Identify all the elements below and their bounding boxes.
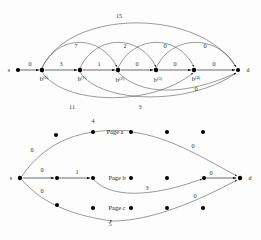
dot-a-1 (54, 133, 58, 137)
edge-page-a-d (131, 132, 237, 176)
weight-arc-l3: 3 (138, 103, 141, 110)
dot-b-2 (91, 176, 95, 180)
weight-page-c-d: 0 (193, 192, 196, 199)
node-d-bottom (238, 176, 242, 180)
label-s-top: s (8, 67, 11, 73)
arc-b2-d-low (118, 72, 236, 90)
weight-page-a-top: 4 (91, 117, 94, 124)
node-b4 (192, 68, 197, 73)
weight-s-page-a: 0 (30, 146, 33, 153)
weight-page-c-low: 5 (108, 220, 111, 227)
weight-page-b-low: 3 (145, 184, 148, 191)
label-node-b1: b(1) (78, 75, 87, 82)
dot-c-5 (201, 206, 205, 210)
arc-b1-b3 (80, 42, 156, 68)
weight-page-b-mid: 1 (75, 168, 78, 175)
arc-b0-d (42, 23, 236, 68)
dot-a-4 (165, 130, 169, 134)
dot-c-2 (91, 206, 95, 210)
arc-b3-d (156, 42, 236, 68)
edge-s-page-c (22, 180, 112, 221)
label-page-c: Page c (109, 204, 126, 211)
label-node-b4: b(4) (192, 75, 201, 82)
weight-b3-b4: 0 (173, 60, 176, 67)
dot-b-1 (55, 176, 59, 180)
weight-arc-u2: 2 (123, 42, 126, 49)
weight-arc-u3: 0 (163, 42, 166, 49)
label-page-b: Page b (108, 174, 125, 181)
label-s-bottom: s (10, 175, 13, 181)
top-graph-lower-arcs (42, 72, 236, 98)
weight-arc-l1: 0 (194, 85, 197, 92)
node-s-bottom (18, 176, 22, 180)
top-graph-upper-arcs (42, 23, 236, 68)
top-graph: s d b(0) b(1) b(2) b(3) b(4) 0 3 1 0 0 0… (8, 12, 250, 110)
dot-b-4 (165, 176, 169, 180)
arc-b2-b4 (118, 42, 194, 68)
label-d-top: d (247, 67, 250, 73)
dot-b-3 (129, 176, 133, 180)
dot-b-5 (202, 176, 206, 180)
dot-c-1 (55, 203, 59, 207)
dot-a-2 (91, 130, 95, 134)
dot-a-3 (129, 130, 133, 134)
label-d-bottom: d (249, 175, 252, 181)
node-b2 (116, 68, 121, 73)
label-node-b3: b(3) (154, 76, 163, 83)
weight-arc-u4: 0 (203, 42, 206, 49)
edge-page-c-d (110, 180, 237, 221)
label-node-b0: b(0) (40, 75, 49, 82)
node-b1 (78, 68, 83, 73)
weight-b2-b3: 0 (135, 60, 138, 67)
weight-s-page-b: 0 (40, 166, 43, 173)
dot-a-5 (201, 130, 205, 134)
label-page-a: Page a (107, 128, 124, 135)
arc-b0-b2 (42, 42, 117, 68)
weight-s-b0: 0 (28, 60, 31, 67)
node-b0 (40, 68, 45, 73)
weight-b1-b2: 1 (97, 60, 100, 67)
weight-b0-b1: 3 (59, 60, 62, 67)
weight-s-page-c: 0 (40, 187, 43, 194)
bottom-graph: s d Page a Page b Page c (10, 117, 252, 227)
weight-arc-top: 15 (116, 12, 122, 19)
weight-page-b-d: 0 (209, 169, 212, 176)
weight-b4-d: 0 (212, 60, 215, 67)
graph-figure-canvas: s d b(0) b(1) b(2) b(3) b(4) 0 3 1 0 0 0… (0, 0, 261, 240)
label-node-b2: b(2) (116, 76, 125, 83)
weight-arc-l2: 11 (69, 103, 75, 110)
weight-page-a-d: 0 (191, 142, 194, 149)
node-d-top (236, 68, 240, 72)
dot-c-4 (165, 206, 169, 210)
node-b3 (154, 68, 159, 73)
figure-root: s d b(0) b(1) b(2) b(3) b(4) 0 3 1 0 0 0… (0, 0, 261, 240)
dot-c-3 (129, 206, 133, 210)
node-s-top (16, 68, 20, 72)
weight-arc-u1: 7 (74, 42, 77, 49)
